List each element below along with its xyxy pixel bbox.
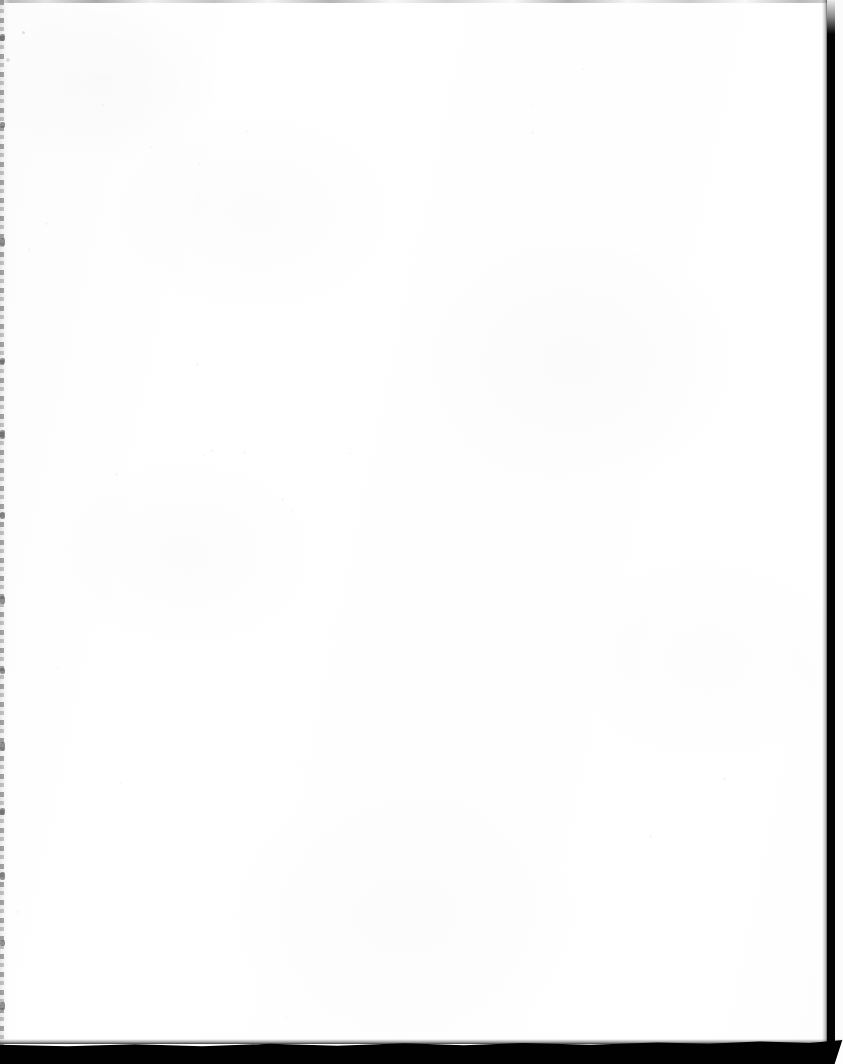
paper-speck [198, 163, 200, 165]
gutter-speck [0, 34, 5, 41]
paper-speck [530, 105, 532, 107]
paper-speck [531, 131, 534, 134]
paper-speck [285, 1016, 287, 1018]
paper-speck [6, 58, 10, 62]
paper-speck [150, 146, 152, 148]
paper-speck [115, 473, 118, 476]
paper-speck [203, 454, 205, 456]
paper-speck [57, 667, 59, 669]
right-band-nick [827, 0, 835, 34]
paper-speck [28, 248, 31, 251]
paper-speck [349, 452, 351, 454]
right-scanner-band [827, 0, 835, 1064]
paper-speck [120, 782, 122, 784]
paper-speck [22, 31, 25, 34]
paper-speck [16, 910, 19, 913]
gutter-speck [0, 596, 5, 604]
paper-speck [649, 835, 652, 838]
gutter-speck [0, 872, 5, 880]
paper-speck [245, 130, 248, 133]
paper-surface [0, 0, 843, 1064]
gutter-speck [0, 1002, 5, 1010]
gutter-speck [0, 668, 5, 674]
top-edge-hairline [0, 0, 843, 3]
paper-speck [723, 777, 726, 780]
paper-speck [582, 68, 584, 70]
paper-speck [102, 104, 104, 106]
scanned-page [0, 0, 843, 1064]
gutter-speck [0, 940, 5, 946]
paper-speck [292, 510, 294, 512]
paper-speck [243, 451, 246, 454]
gutter-speck [0, 512, 5, 519]
bottom-band-falloff [0, 1039, 843, 1044]
left-binding-gutter [0, 0, 4, 1064]
gutter-speck [0, 742, 5, 751]
gutter-speck [0, 808, 5, 815]
gutter-speck [0, 358, 5, 364]
paper-speck [281, 498, 284, 501]
gutter-speck [0, 122, 5, 128]
paper-speck [196, 363, 199, 366]
paper-speck [331, 631, 333, 633]
gutter-speck [0, 430, 5, 439]
paper-speck [197, 196, 199, 198]
gutter-speck [0, 238, 5, 246]
paper-speck [210, 449, 213, 452]
right-outer-margin [835, 0, 843, 1064]
paper-speck [407, 959, 409, 961]
paper-speck [45, 222, 48, 225]
